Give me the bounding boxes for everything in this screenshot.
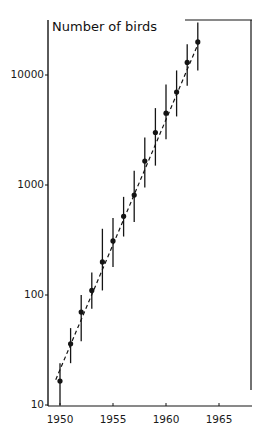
x-tick-label: 1950 <box>47 413 74 425</box>
y-axis-ticks: 10100100010000 <box>11 68 48 410</box>
point-marker <box>195 39 200 44</box>
x-tick-label: 1960 <box>153 413 180 425</box>
point-marker <box>153 130 158 135</box>
data-point-1953 <box>89 273 94 309</box>
bird-population-chart: 10100100010000 1950195519601965 Number o… <box>0 0 265 440</box>
y-tick-label: 1000 <box>17 178 44 190</box>
data-point-1962 <box>185 44 190 85</box>
y-tick-label: 10000 <box>11 68 44 80</box>
point-marker <box>89 288 94 293</box>
y-tick-label: 10 <box>31 398 44 410</box>
chart-frame <box>48 20 252 406</box>
data-point-1955 <box>110 218 115 267</box>
data-point-1958 <box>142 138 147 188</box>
point-marker <box>110 238 115 243</box>
data-point-1960 <box>163 84 168 139</box>
point-marker <box>163 111 168 116</box>
point-marker <box>142 158 147 163</box>
data-point-1951 <box>68 328 73 363</box>
point-marker <box>100 259 105 264</box>
point-marker <box>79 309 84 314</box>
data-point-1959 <box>153 108 158 166</box>
y-tick-label: 100 <box>24 288 44 300</box>
data-point-1957 <box>132 171 137 222</box>
point-marker <box>57 378 62 383</box>
data-point-1963 <box>195 23 200 71</box>
data-points <box>57 23 200 405</box>
data-point-1950 <box>57 363 62 405</box>
point-marker <box>185 60 190 65</box>
data-point-1961 <box>174 70 179 116</box>
data-point-1956 <box>121 197 126 237</box>
point-marker <box>132 192 137 197</box>
x-tick-label: 1965 <box>206 413 233 425</box>
x-tick-label: 1955 <box>100 413 127 425</box>
point-marker <box>174 89 179 94</box>
data-point-1952 <box>79 295 84 341</box>
point-marker <box>121 214 126 219</box>
data-point-1954 <box>100 229 105 291</box>
point-marker <box>68 341 73 346</box>
y-axis-title: Number of birds <box>52 19 157 34</box>
